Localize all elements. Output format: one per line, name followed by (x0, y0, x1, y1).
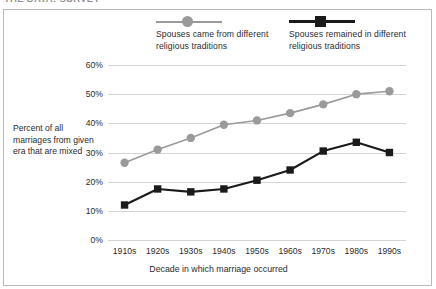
data-point-circle (187, 134, 195, 142)
figure-frame: Spouses came from different religious tr… (3, 9, 432, 286)
data-point-circle (120, 159, 128, 167)
series-line (125, 91, 390, 162)
data-point-circle (352, 90, 360, 98)
data-point-square (154, 185, 161, 192)
series-line (125, 142, 390, 205)
chart-legend: Spouses came from different religious tr… (4, 10, 433, 58)
x-axis-tick-label: 1980s (345, 246, 368, 256)
legend-marker-square (289, 15, 355, 28)
circle-marker-icon (182, 16, 193, 27)
x-axis-tick-label: 1970s (312, 246, 335, 256)
data-point-square (220, 185, 227, 192)
gridline (108, 240, 406, 241)
data-point-circle (153, 145, 161, 153)
legend-label-series-1: Spouses came from different religious tr… (156, 29, 286, 52)
data-point-circle (253, 116, 261, 124)
data-point-circle (220, 121, 228, 129)
caption-text: THE DATA: SURVEY (4, 0, 100, 4)
series-layer (108, 65, 406, 240)
data-point-circle (385, 87, 393, 95)
square-marker-icon (315, 16, 326, 27)
x-axis-tick-label: 1920s (146, 246, 169, 256)
x-axis-title: Decade in which marriage occurred (4, 264, 433, 274)
x-axis-tick-label: 1960s (278, 246, 301, 256)
data-point-square (386, 149, 393, 156)
y-axis-tick-label: 60% (86, 60, 103, 70)
legend-marker-circle (156, 15, 222, 28)
legend-label-series-2: Spouses remained in different religious … (289, 29, 424, 52)
x-axis-tick-label: 1910s (113, 246, 136, 256)
x-axis-tick-label: 1950s (245, 246, 268, 256)
y-axis-tick-label: 0% (91, 235, 103, 245)
y-axis-tick-label: 30% (86, 148, 103, 158)
data-point-square (286, 166, 293, 173)
legend-item-series-1: Spouses came from different religious tr… (156, 15, 286, 52)
chart-figure: THE DATA: SURVEY Spouses came from diffe… (0, 0, 436, 289)
caption-strip: THE DATA: SURVEY (0, 0, 436, 7)
y-axis-tick-label: 10% (86, 206, 103, 216)
plot-area: 0%10%20%30%40%50%60% 1910s1920s1930s1940… (108, 65, 406, 240)
y-axis-tick-label: 50% (86, 89, 103, 99)
data-point-square (187, 188, 194, 195)
data-point-circle (286, 109, 294, 117)
x-axis-tick-label: 1940s (212, 246, 235, 256)
data-point-square (353, 139, 360, 146)
x-axis-tick-label: 1990s (378, 246, 401, 256)
data-point-circle (319, 100, 327, 108)
x-axis-tick-label: 1930s (179, 246, 202, 256)
y-axis-tick-label: 40% (86, 118, 103, 128)
data-point-square (121, 201, 128, 208)
data-point-square (253, 177, 260, 184)
y-axis-title: Percent of all marriages from given era … (13, 123, 95, 158)
y-axis-tick-label: 20% (86, 177, 103, 187)
data-point-square (320, 147, 327, 154)
legend-item-series-2: Spouses remained in different religious … (289, 15, 424, 52)
